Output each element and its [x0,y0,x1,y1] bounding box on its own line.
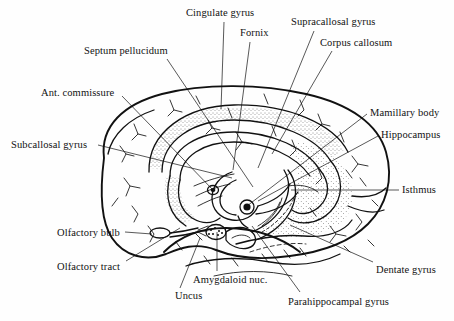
label-mamillary-body: Mamillary body [370,108,439,119]
olfactory-bulb-and-tract [150,226,208,240]
label-subcallosal-gyrus: Subcallosal gyrus [11,140,87,151]
uncus [226,228,255,249]
label-ant-commissure: Ant. commissure [41,88,114,99]
leader-cingulate-gyrus [221,22,224,109]
label-fornix: Fornix [240,28,269,39]
label-olfactory-bulb: Olfactory bulb [57,228,120,239]
label-cingulate-gyrus: Cingulate gyrus [186,8,254,19]
amygdaloid-nucleus [206,225,226,240]
label-corpus-callosum: Corpus callosum [320,38,392,49]
leader-lines [98,22,399,292]
label-dentate-gyrus: Dentate gyrus [376,265,436,276]
label-olfactory-tract: Olfactory tract [57,262,120,273]
label-supracallosal-gyrus: Supracallosal gyrus [291,17,375,28]
limbic-system-figure: Cingulate gyrus Fornix Supracallosal gyr… [0,0,454,321]
label-amygdaloid-nuc: Amygdaloid nuc. [193,275,267,286]
label-septum-pellucidum: Septum pellucidum [84,46,168,57]
leader-fornix [233,42,250,170]
label-isthmus: Isthmus [402,185,436,196]
label-uncus: Uncus [175,291,202,302]
label-hippocampus: Hippocampus [381,130,440,141]
label-parahippocampal-gyrus: Parahippocampal gyrus [288,297,389,308]
leader-olfactory-bulb [125,232,152,234]
